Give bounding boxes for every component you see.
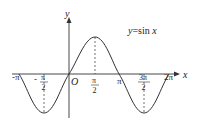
tick-half-pi-den: 2 (93, 86, 97, 95)
tick-neg-half-pi-den: 2 (42, 83, 46, 92)
x-axis-arrow-icon (174, 72, 180, 77)
x-axis-label: x (182, 69, 188, 80)
chart-title: y=sin x (127, 25, 157, 36)
tick-neg-half-pi-sign: - (34, 74, 37, 84)
tick-neg-half-pi-num: π (41, 73, 45, 82)
tick-pi: π (117, 76, 122, 86)
tick-two-pi: 2π (164, 72, 174, 82)
tick-three-half-pi-den: 2 (142, 83, 146, 92)
y-axis-label: y (64, 8, 70, 19)
sine-chart: y x O y=sin x -π - π 2 π 2 π 3π 2 2π (0, 0, 198, 123)
origin-label: O (71, 76, 78, 87)
tick-neg-pi: -π (12, 72, 20, 82)
tick-half-pi-num: π (92, 76, 96, 85)
tick-three-half-pi-num: 3π (139, 73, 147, 82)
